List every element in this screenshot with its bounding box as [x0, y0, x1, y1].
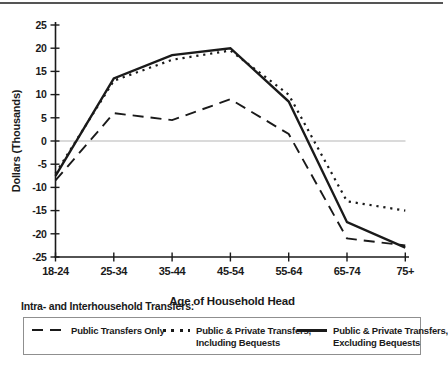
- svg-text:18-24: 18-24: [42, 265, 70, 277]
- svg-text:10: 10: [35, 88, 47, 100]
- dotted-line-icon: [163, 329, 190, 332]
- svg-text:75+: 75+: [396, 265, 414, 277]
- legend-label: Public & Private Transfers,: [333, 325, 448, 337]
- series-dotted: [56, 51, 406, 211]
- svg-text:25: 25: [35, 19, 47, 31]
- x-axis: 18-2425-3435-4445-5455-6465-7475+: [42, 253, 414, 278]
- svg-text:5: 5: [41, 112, 47, 124]
- svg-text:-25: -25: [32, 251, 47, 263]
- svg-text:45-54: 45-54: [217, 265, 245, 277]
- svg-text:35-44: 35-44: [159, 265, 187, 277]
- svg-text:0: 0: [41, 135, 47, 147]
- legend-heading: Intra- and Interhousehold Transfers:: [21, 300, 194, 312]
- svg-text:-15: -15: [32, 204, 47, 216]
- legend-item-public-transfers-only: Public Transfers Only: [32, 325, 163, 337]
- series-solid: [56, 48, 406, 248]
- solid-line-icon: [297, 329, 327, 332]
- legend-item-including-bequests: Public & Private Transfers, Including Be…: [163, 325, 297, 350]
- svg-text:20: 20: [35, 42, 47, 54]
- svg-text:-20: -20: [32, 228, 47, 240]
- svg-text:-5: -5: [38, 158, 47, 170]
- legend-label: Public Transfers Only: [71, 325, 164, 337]
- y-axis-title: Dollars (Thousands): [10, 90, 22, 193]
- y-axis: 2520151050-5-10-15-20-25: [32, 19, 59, 263]
- legend-box: Public Transfers Only Public & Private T…: [23, 317, 421, 355]
- svg-text:55-64: 55-64: [275, 265, 303, 277]
- legend-label: Public & Private Transfers,: [196, 325, 311, 337]
- legend-item-excluding-bequests: Public & Private Transfers, Excluding Be…: [297, 325, 448, 350]
- svg-text:-10: -10: [32, 181, 47, 193]
- svg-text:25-34: 25-34: [100, 265, 128, 277]
- dashed-line-icon: [32, 329, 65, 331]
- legend-label: Excluding Bequests: [333, 337, 448, 349]
- transfers-line-chart: 2520151050-5-10-15-20-2518-2425-3435-444…: [0, 0, 443, 312]
- svg-text:15: 15: [35, 65, 47, 77]
- svg-text:65-74: 65-74: [334, 265, 362, 277]
- legend-label: Including Bequests: [196, 337, 311, 349]
